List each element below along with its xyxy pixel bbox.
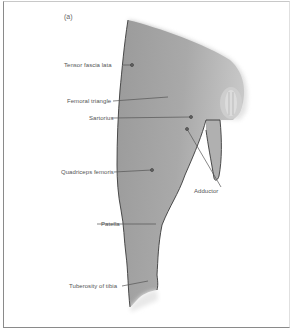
label-tensor-fascia-lata: Tensor fascia lata (64, 62, 112, 69)
label-sartorius: Sartorius (89, 115, 113, 122)
label-femoral-triangle: Femoral triangle (67, 98, 111, 105)
panel-label: (a) (64, 13, 73, 20)
thigh-illustration (0, 0, 295, 333)
limb-shape (117, 20, 244, 307)
label-adductor: Adductor (194, 188, 218, 195)
label-patella: Patella (101, 221, 120, 228)
adductor-shape (206, 120, 221, 180)
label-quadriceps-femoris: Quadriceps femoris (61, 169, 114, 176)
label-tuberosity-of-tibia: Tuberosity of tibia (69, 283, 117, 290)
